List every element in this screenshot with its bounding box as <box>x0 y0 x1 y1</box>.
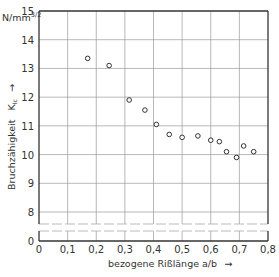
svg-text:0,7: 0,7 <box>231 244 247 255</box>
data-point <box>85 56 90 61</box>
data-point <box>234 155 239 160</box>
data-point <box>217 139 222 144</box>
data-point <box>107 63 112 68</box>
svg-text:0,4: 0,4 <box>146 244 162 255</box>
scatter-chart: 00,10,20,30,40,50,60,70,8089101112131415… <box>0 0 279 277</box>
grid-lines <box>36 11 271 241</box>
y-axis-title: Bruchzähigkeit KIc → <box>6 84 19 190</box>
svg-text:11: 11 <box>21 121 34 132</box>
data-point <box>251 149 256 154</box>
data-point <box>196 134 201 139</box>
y-axis-unit: N/mm3/2 <box>2 11 41 23</box>
x-axis-title: bezogene Rißlänge a/b → <box>108 258 232 269</box>
svg-text:0,1: 0,1 <box>60 244 76 255</box>
svg-text:9: 9 <box>28 178 34 189</box>
data-point <box>127 98 132 103</box>
svg-text:0,8: 0,8 <box>260 244 276 255</box>
data-point <box>241 144 246 149</box>
svg-text:8: 8 <box>28 207 34 218</box>
svg-text:0: 0 <box>36 244 42 255</box>
svg-text:0,3: 0,3 <box>117 244 133 255</box>
data-point <box>143 108 148 113</box>
data-point <box>167 132 172 137</box>
data-point <box>180 135 185 140</box>
svg-text:13: 13 <box>21 63 34 74</box>
data-point <box>224 149 229 154</box>
data-point <box>208 138 213 143</box>
svg-text:Bruchzähigkeit KIc: Bruchzähigkeit KIc → <box>6 84 19 190</box>
svg-text:0,6: 0,6 <box>203 244 219 255</box>
arrow-icon: → <box>224 258 232 269</box>
tick-labels: 00,10,20,30,40,50,60,70,8089101112131415 <box>21 6 276 255</box>
svg-text:0: 0 <box>28 236 34 247</box>
svg-text:0,2: 0,2 <box>88 244 104 255</box>
svg-text:14: 14 <box>21 35 34 46</box>
svg-text:12: 12 <box>21 92 34 103</box>
svg-text:10: 10 <box>21 150 34 161</box>
arrow-icon: → <box>6 84 17 92</box>
svg-text:0,5: 0,5 <box>174 244 190 255</box>
data-points <box>85 56 256 160</box>
data-point <box>154 122 159 127</box>
